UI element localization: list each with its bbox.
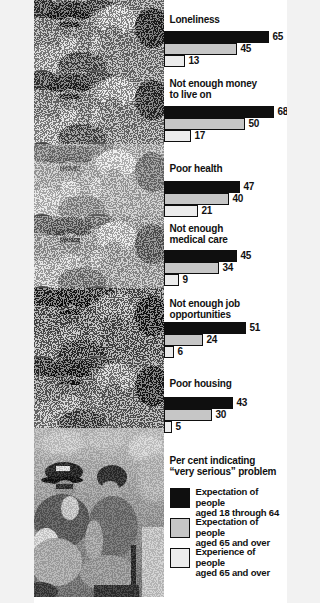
bar-expectation-65-over (164, 43, 237, 55)
legend-label: Expectation of people aged 65 and over (196, 517, 287, 549)
group-title-job-opportunities: Not enough job opportunities (170, 299, 285, 320)
bar-row: 5 (164, 421, 287, 433)
bar-row: 68 (164, 106, 287, 118)
group-title-housing: Poor housing (170, 379, 285, 390)
bar-row: 17 (164, 130, 287, 142)
bar-row: 6 (164, 346, 287, 358)
bar-expectation-18-64 (164, 106, 274, 118)
bar-experience-65-over (164, 55, 185, 67)
bar-value: 30 (216, 409, 227, 421)
group-title-money: Not enough money to live on (170, 79, 285, 100)
crowd-photo (34, 0, 164, 597)
bar-value: 40 (233, 193, 244, 205)
bar-experience-65-over (164, 346, 174, 358)
bar-expectation-65-over (164, 262, 219, 274)
group-title-health: Poor health (170, 164, 285, 175)
bar-expectation-65-over (164, 193, 229, 205)
bar-row: 45 (164, 250, 287, 262)
bar-row: 45 (164, 43, 287, 55)
group-title-loneliness: Loneliness (170, 15, 285, 26)
bar-value: 24 (207, 334, 218, 346)
bar-value: 17 (195, 130, 206, 142)
legend-label: Experience of people aged 65 and over (196, 547, 287, 579)
bar-row: 65 (164, 31, 287, 43)
bar-expectation-18-64 (164, 31, 269, 43)
bar-group-housing: 43 30 5 (164, 397, 287, 433)
legend-heading: Per cent indicating “very serious” probl… (170, 456, 285, 477)
bar-expectation-18-64 (164, 250, 237, 262)
bar-value: 68 (278, 106, 287, 118)
bar-value: 6 (178, 346, 183, 358)
bar-value: 47 (244, 181, 255, 193)
legend-swatch-light (170, 548, 190, 568)
bar-expectation-65-over (164, 409, 212, 421)
bar-row: 34 (164, 262, 287, 274)
bar-value: 13 (189, 55, 200, 67)
bar-value: 65 (273, 31, 284, 43)
bar-row: 40 (164, 193, 287, 205)
bar-experience-65-over (164, 274, 179, 286)
bar-value: 51 (250, 322, 261, 334)
bar-value: 50 (249, 118, 260, 130)
bar-value: 43 (237, 397, 248, 409)
bar-row: 9 (164, 274, 287, 286)
bar-group-medical-care: 45 34 9 (164, 250, 287, 286)
bar-expectation-18-64 (164, 397, 233, 409)
bar-row: 50 (164, 118, 287, 130)
bar-row: 47 (164, 181, 287, 193)
bar-value: 45 (241, 43, 252, 55)
infographic-page: Loneliness 65 45 13 Not enough money to … (34, 0, 287, 603)
group-title-medical-care: Not enough medical care (170, 224, 285, 245)
bar-row: 24 (164, 334, 287, 346)
bar-expectation-18-64 (164, 181, 240, 193)
bar-expectation-65-over (164, 118, 245, 130)
bar-group-loneliness: 65 45 13 (164, 31, 287, 67)
bar-value: 21 (202, 205, 213, 217)
bar-experience-65-over (164, 421, 172, 433)
bar-row: 51 (164, 322, 287, 334)
legend-swatch-black (170, 488, 190, 508)
bar-group-money: 68 50 17 (164, 106, 287, 142)
bar-value: 9 (183, 274, 188, 286)
bar-row: 21 (164, 205, 287, 217)
legend-swatch-gray (170, 518, 190, 538)
bar-experience-65-over (164, 130, 191, 142)
bar-expectation-18-64 (164, 322, 246, 334)
bar-group-job-opportunities: 51 24 6 (164, 322, 287, 358)
bar-row: 13 (164, 55, 287, 67)
bar-experience-65-over (164, 205, 198, 217)
bar-value: 5 (176, 421, 181, 433)
bar-row: 30 (164, 409, 287, 421)
bar-value: 34 (223, 262, 234, 274)
bar-value: 45 (241, 250, 252, 262)
bar-expectation-65-over (164, 334, 203, 346)
bar-group-health: 47 40 21 (164, 181, 287, 217)
bar-row: 43 (164, 397, 287, 409)
legend-label: Expectation of people aged 18 through 64 (196, 487, 287, 519)
